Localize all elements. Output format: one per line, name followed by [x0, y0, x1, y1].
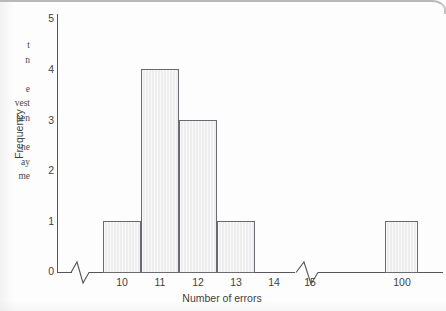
x-axis-segment: [325, 272, 443, 273]
x-tick-label: 11: [145, 276, 175, 288]
scanned-figure-page: t n e vest hen ne ay me Frequency 5 4 3 …: [0, 0, 446, 311]
histogram-bar: [217, 221, 255, 273]
x-axis-break-icon: [70, 258, 96, 288]
y-axis-title: Frequency: [13, 94, 25, 174]
y-axis-line: [57, 14, 58, 272]
x-tick-label: 10: [107, 276, 137, 288]
histogram-bar: [103, 221, 141, 273]
x-tick-label: 12: [183, 276, 213, 288]
histogram-bar: [141, 69, 179, 273]
scan-shadow-bottom: [0, 301, 446, 311]
histogram-bar: [179, 120, 217, 273]
y-tick-label: 1: [38, 215, 54, 227]
x-tick-label: 15: [295, 276, 325, 288]
x-tick-label: 100: [387, 276, 417, 288]
y-tick-label: 0: [38, 265, 54, 277]
y-tick-label: 3: [38, 114, 54, 126]
y-tick-label: 5: [38, 12, 54, 24]
y-tick-label: 2: [38, 164, 54, 176]
y-tick-label: 4: [38, 63, 54, 75]
x-tick-label: 13: [221, 276, 251, 288]
x-tick-label: 14: [259, 276, 289, 288]
histogram-chart: Frequency 5 4 3 2 1 0 10 11 12 13 14 15 …: [0, 0, 446, 311]
histogram-bar: [385, 221, 418, 273]
